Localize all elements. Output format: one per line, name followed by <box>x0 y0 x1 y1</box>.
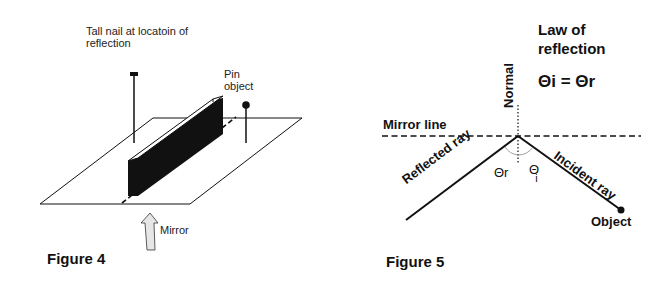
law-title-line1: Law of <box>538 20 606 39</box>
angle-arc-i <box>518 147 533 155</box>
pin-label-line1: Pin <box>224 68 253 80</box>
theta-i-label: Θi <box>529 162 542 177</box>
law-equation: Θi = Θr <box>538 72 595 92</box>
figure-5-caption: Figure 5 <box>386 253 444 270</box>
theta-i-subscript: i <box>535 172 537 184</box>
mirror-front-face <box>128 98 223 196</box>
nail-label: Tall nail at locatoin of reflection <box>86 25 188 49</box>
nail-label-line2: reflection <box>86 37 188 49</box>
object-point <box>618 207 625 214</box>
mirror-line-label: Mirror line <box>383 117 447 132</box>
nail-head <box>130 72 138 76</box>
law-title: Law of reflection <box>538 20 606 58</box>
law-title-line2: reflection <box>538 39 606 58</box>
pin-label: Pin object <box>224 68 253 92</box>
mirror-arrow <box>141 213 158 250</box>
theta-r-label: Θr <box>494 165 508 180</box>
normal-label: Normal <box>501 63 516 108</box>
nail-label-line1: Tall nail at locatoin of <box>86 25 188 37</box>
pin-label-line2: object <box>224 80 253 92</box>
figure-4-caption: Figure 4 <box>47 250 105 267</box>
pin-head <box>242 101 250 109</box>
mirror-label: Mirror <box>160 224 189 236</box>
object-label: Object <box>591 214 631 229</box>
angle-arc-r <box>505 147 518 155</box>
